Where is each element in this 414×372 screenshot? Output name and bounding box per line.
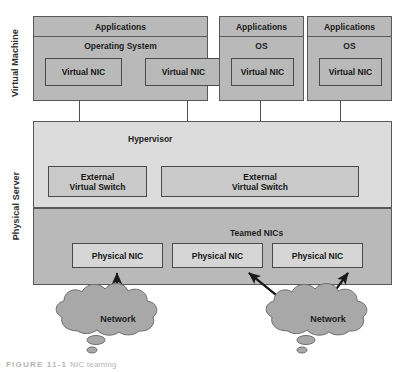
network-cloud-right: Network	[266, 284, 367, 353]
network-cloud-left-label: Network	[100, 314, 137, 324]
network-arrows-and-clouds: Network Network	[0, 0, 414, 372]
figure-diagram: Virtual Machine Physical Server Applicat…	[0, 0, 414, 372]
network-cloud-right-label: Network	[310, 314, 347, 324]
network-cloud-left: Network	[56, 284, 157, 353]
figure-number: FIGURE 11-1	[6, 360, 67, 369]
figure-caption: FIGURE 11-1 NIC teaming	[6, 360, 117, 369]
figure-caption-text: NIC teaming	[70, 360, 117, 369]
